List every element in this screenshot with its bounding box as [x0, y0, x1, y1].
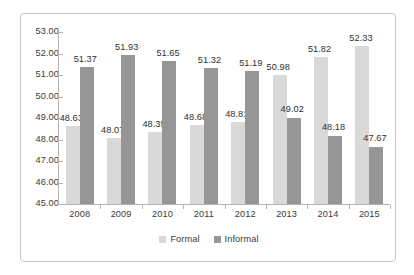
- y-axis-tick-label: 46.00: [25, 178, 59, 187]
- x-axis-tick-mark: [225, 205, 226, 209]
- bar-group: 50.9849.02: [273, 32, 301, 204]
- y-axis-tick-mark: [59, 140, 63, 141]
- x-axis-category-label: 2013: [266, 210, 307, 219]
- x-axis-tick-mark: [142, 205, 143, 209]
- bars-layer: 48.6351.3748.0751.9348.3551.6548.6851.32…: [59, 32, 390, 204]
- bar-informal-2014[interactable]: [328, 136, 342, 204]
- bar-value-label: 48.18: [322, 123, 345, 132]
- bar-value-label: 51.93: [115, 43, 138, 52]
- bar-value-label: 51.82: [308, 45, 331, 54]
- y-axis-tick-label: 49.00: [25, 113, 59, 122]
- y-axis-tick-label: 47.00: [25, 156, 59, 165]
- bar-value-label: 51.37: [74, 55, 97, 64]
- x-axis-tick-mark: [349, 205, 350, 209]
- bar-value-label: 50.98: [267, 63, 290, 72]
- bar-formal-2011[interactable]: [190, 125, 204, 204]
- y-axis-tick-mark: [59, 32, 63, 33]
- y-axis-tick-label: 48.00: [25, 135, 59, 144]
- bar-formal-2009[interactable]: [107, 138, 121, 204]
- bar-informal-2011[interactable]: [204, 68, 218, 204]
- bar-group: 48.6351.37: [66, 32, 94, 204]
- y-axis-tick-label: 45.00: [25, 199, 59, 208]
- y-axis-tick-mark: [59, 97, 63, 98]
- bar-formal-2008[interactable]: [66, 126, 80, 204]
- x-axis-category-label: 2008: [59, 210, 100, 219]
- x-axis-tick-mark: [183, 205, 184, 209]
- y-axis-tick-mark: [59, 204, 63, 205]
- legend-item-informal[interactable]: Informal: [214, 235, 259, 244]
- bar-value-label: 52.33: [349, 34, 372, 43]
- chart-legend: FormalInformal: [21, 235, 397, 244]
- y-axis-tick-label: 51.00: [25, 70, 59, 79]
- x-axis-category-label: 2015: [349, 210, 390, 219]
- y-axis-tick-mark: [59, 54, 63, 55]
- bar-group: 48.0751.93: [107, 32, 135, 204]
- bar-value-label: 51.19: [239, 59, 262, 68]
- x-axis-tick-mark: [266, 205, 267, 209]
- bar-value-label: 47.67: [363, 134, 386, 143]
- bar-group: 51.8248.18: [314, 32, 342, 204]
- bar-informal-2008[interactable]: [80, 67, 94, 204]
- legend-swatch-icon: [159, 236, 166, 243]
- bar-formal-2010[interactable]: [148, 132, 162, 204]
- x-axis-tick-mark: [390, 205, 391, 209]
- bar-informal-2010[interactable]: [162, 61, 176, 204]
- y-axis-tick-label: 53.00: [25, 27, 59, 36]
- bar-informal-2015[interactable]: [369, 147, 383, 204]
- bar-informal-2009[interactable]: [121, 55, 135, 204]
- bar-informal-2013[interactable]: [287, 118, 301, 204]
- x-axis-category-label: 2009: [100, 210, 141, 219]
- x-axis-category-label: 2012: [225, 210, 266, 219]
- y-axis-tick-mark: [59, 183, 63, 184]
- bar-formal-2015[interactable]: [355, 46, 369, 204]
- bar-formal-2013[interactable]: [273, 75, 287, 204]
- bar-group: 48.3551.65: [148, 32, 176, 204]
- bar-group: 52.3347.67: [355, 32, 383, 204]
- y-axis-tick-mark: [59, 75, 63, 76]
- legend-label: Informal: [225, 235, 259, 244]
- bar-informal-2012[interactable]: [245, 71, 259, 204]
- x-axis-category-label: 2014: [307, 210, 348, 219]
- y-axis-tick-label: 52.00: [25, 49, 59, 58]
- x-axis-category-label: 2010: [142, 210, 183, 219]
- y-axis-tick-mark: [59, 161, 63, 162]
- bar-group: 48.6851.32: [190, 32, 218, 204]
- bar-value-label: 51.65: [156, 49, 179, 58]
- bar-value-label: 49.02: [281, 105, 304, 114]
- legend-swatch-icon: [214, 236, 221, 243]
- bar-value-label: 51.32: [198, 56, 221, 65]
- x-axis-category-label: 2011: [183, 210, 224, 219]
- chart-plot-area: 53.0052.0051.0050.0049.0048.0047.0046.00…: [21, 14, 397, 263]
- x-axis-tick-mark: [100, 205, 101, 209]
- bar-formal-2012[interactable]: [231, 122, 245, 204]
- bar-group: 48.8151.19: [231, 32, 259, 204]
- y-axis-tick-mark: [59, 118, 63, 119]
- y-axis-labels: 53.0052.0051.0050.0049.0048.0047.0046.00…: [23, 14, 59, 263]
- legend-label: Formal: [170, 235, 199, 244]
- y-axis-tick-label: 50.00: [25, 92, 59, 101]
- chart-container: 53.0052.0051.0050.0049.0048.0047.0046.00…: [20, 13, 396, 262]
- legend-item-formal[interactable]: Formal: [159, 235, 199, 244]
- x-axis-tick-mark: [307, 205, 308, 209]
